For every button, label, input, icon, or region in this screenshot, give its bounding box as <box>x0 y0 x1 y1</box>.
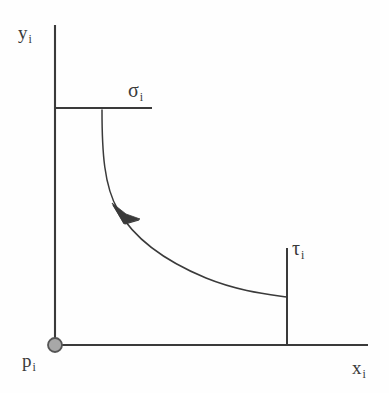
sigma-tick-label-base: σ <box>128 79 139 101</box>
y-axis-label: yi <box>18 23 31 42</box>
x-axis-label-subscript: i <box>363 367 366 381</box>
origin-point-label-base: p <box>22 350 32 371</box>
direction-arrowhead-icon <box>112 203 140 224</box>
x-axis-label-base: x <box>352 357 362 378</box>
trajectory-curve <box>102 110 287 297</box>
sigma-tick-label-subscript: i <box>140 90 143 104</box>
tau-tick-label-subscript: i <box>301 248 304 262</box>
origin-point-label-subscript: i <box>33 360 36 374</box>
tau-tick-label-base: τ <box>292 237 300 259</box>
figure-canvas: yi xi pi σi τi <box>0 0 389 393</box>
origin-node-marker <box>48 338 62 352</box>
x-axis-label: xi <box>352 358 365 377</box>
y-axis-label-base: y <box>18 22 28 43</box>
y-axis-label-subscript: i <box>29 32 32 46</box>
origin-point-label: pi <box>22 351 35 370</box>
tau-tick-label: τi <box>292 238 303 258</box>
diagram-svg <box>0 0 389 393</box>
sigma-tick-label: σi <box>128 80 142 100</box>
